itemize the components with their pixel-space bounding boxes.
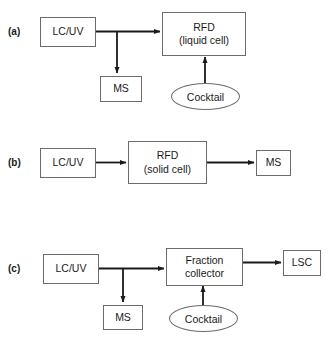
node-label-line1: MS (115, 311, 131, 324)
node-label-line1: RFD (157, 149, 179, 162)
flow-diagram-figure: (a) LC/UV RFD (liquid cell) MS Cocktail … (0, 0, 335, 340)
panel-c-node-cocktail: Cocktail (169, 305, 238, 332)
panel-a-node-ms: MS (100, 76, 142, 102)
node-label-line1: LC/UV (56, 262, 87, 275)
panel-b-node-rfd-solid-cell: RFD (solid cell) (128, 141, 207, 184)
panel-a-node-rfd-liquid-cell: RFD (liquid cell) (162, 12, 246, 56)
node-label-line1: Cocktail (185, 313, 222, 325)
panel-c-node-lc-uv: LC/UV (43, 254, 99, 284)
node-label-line1: LC/UV (53, 25, 84, 38)
panel-c-node-ms: MS (103, 305, 143, 330)
panel-label-a: (a) (8, 26, 20, 37)
node-label-line1: LSC (292, 256, 312, 269)
node-label-line1: MS (266, 156, 282, 169)
panel-c-node-lsc: LSC (283, 250, 321, 276)
node-label-line2: (solid cell) (144, 163, 191, 176)
node-label-line2: (liquid cell) (179, 34, 229, 47)
node-label-line1: MS (113, 82, 129, 95)
node-label-line2: collector (185, 267, 224, 280)
node-label-line1: Cocktail (187, 91, 224, 103)
panel-b-node-lc-uv: LC/UV (40, 148, 96, 178)
panel-a-node-lc-uv: LC/UV (40, 17, 96, 47)
panel-a-node-cocktail: Cocktail (171, 83, 240, 110)
panel-label-c: (c) (8, 263, 20, 274)
panel-c-node-fraction-collector: Fraction collector (166, 248, 243, 286)
node-label-line1: RFD (193, 21, 215, 34)
panel-label-b: (b) (8, 157, 21, 168)
node-label-line1: LC/UV (53, 156, 84, 169)
node-label-line1: Fraction (186, 254, 224, 267)
panel-b-node-ms: MS (256, 150, 291, 176)
